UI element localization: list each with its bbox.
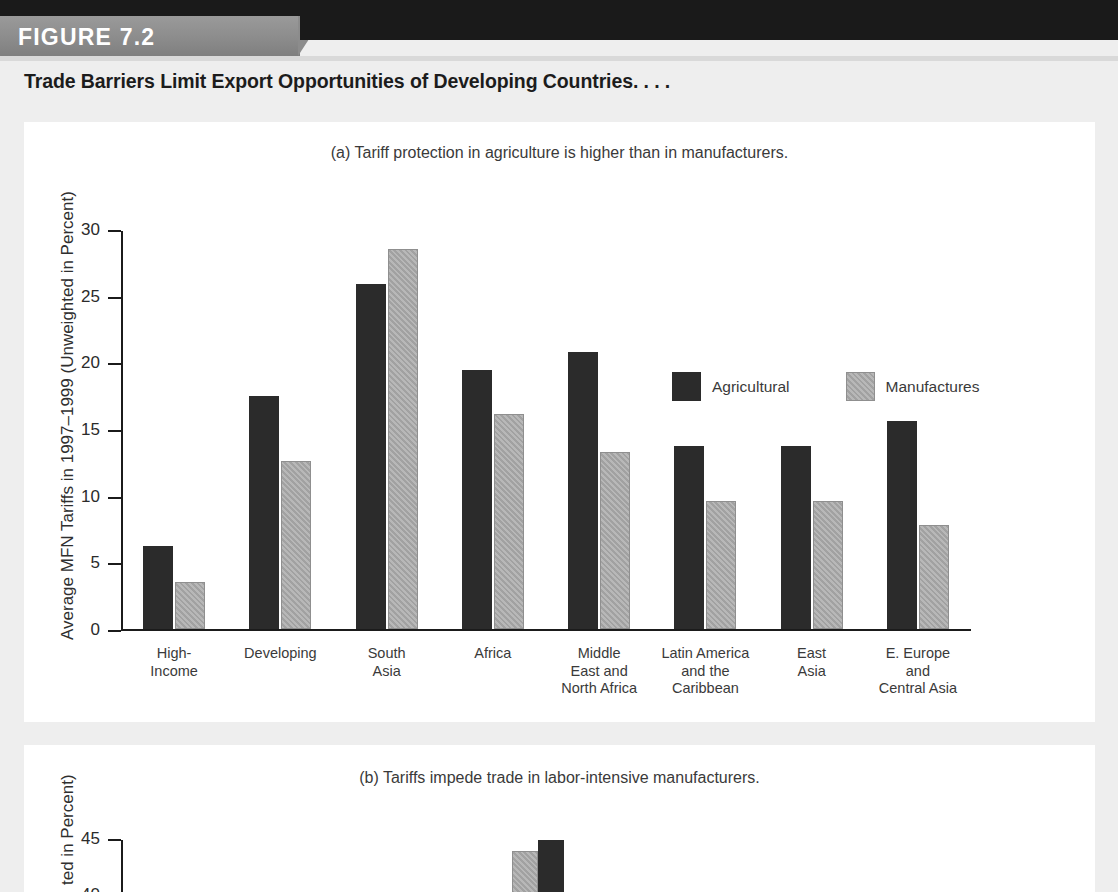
chart-panel-a: (a) Tariff protection in agriculture is … (24, 122, 1095, 722)
panel-a-y-tick-label: 10 (81, 486, 100, 506)
bar-manufactures-6 (813, 501, 843, 629)
figure-page: FIGURE 7.2 Trade Barriers Limit Export O… (0, 0, 1118, 892)
bar-manufactures-2 (388, 249, 418, 629)
panel-a-caption: (a) Tariff protection in agriculture is … (24, 144, 1095, 162)
panel-a-category-label: Latin Americaand theCaribbean (661, 645, 749, 698)
panel-a-y-tick: 0 (108, 630, 121, 632)
bar-agricultural-0 (143, 546, 173, 629)
banner-underline-strip (0, 56, 1118, 61)
panel-a-y-tick: 15 (108, 430, 121, 432)
panel-b-y-tick-label: 40 (81, 885, 100, 892)
panel-a-category-label: MiddleEast andNorth Africa (561, 645, 637, 698)
panel-a-y-tick-label: 15 (81, 420, 100, 440)
panel-b-bar-1 (538, 840, 564, 892)
panel-a-x-axis-line (121, 629, 971, 631)
panel-a-y-tick: 30 (108, 230, 121, 232)
bar-manufactures-0 (175, 582, 205, 629)
bar-manufactures-1 (281, 461, 311, 629)
panel-a-y-tick-label: 30 (81, 220, 100, 240)
bar-manufactures-5 (706, 501, 736, 629)
panel-b-y-tick: 45 (108, 839, 121, 841)
panel-a-y-tick: 10 (108, 497, 121, 499)
bar-manufactures-7 (919, 525, 949, 629)
panel-b-y-axis-label: ted in Percent) (58, 774, 78, 885)
panel-a-plot-area: 051015202530High-IncomeDevelopingSouthAs… (121, 231, 971, 631)
bar-agricultural-6 (781, 446, 811, 629)
panel-a-y-tick-label: 25 (81, 286, 100, 306)
legend-item-agricultural: Agricultural (672, 372, 790, 401)
legend-label-agricultural: Agricultural (712, 378, 790, 396)
figure-banner: FIGURE 7.2 (0, 16, 420, 56)
panel-a-category-label: Africa (474, 645, 511, 663)
figure-number-label: FIGURE 7.2 (18, 24, 155, 51)
bar-agricultural-4 (568, 352, 598, 629)
bar-manufactures-4 (600, 452, 630, 629)
bar-agricultural-7 (887, 421, 917, 629)
panel-a-y-tick-label: 5 (91, 553, 100, 573)
panel-a-y-tick-label: 0 (91, 620, 100, 640)
legend-swatch-agricultural-icon (672, 372, 701, 401)
panel-b-plot-area: 4045 (121, 840, 971, 892)
bar-manufactures-3 (494, 414, 524, 629)
chart-panel-b: (b) Tariffs impede trade in labor-intens… (24, 745, 1095, 892)
panel-a-category-label: E. EuropeandCentral Asia (879, 645, 957, 698)
panel-b-y-axis-line (121, 840, 123, 892)
panel-a-y-tick: 25 (108, 297, 121, 299)
figure-title: Trade Barriers Limit Export Opportunitie… (24, 70, 670, 93)
bar-agricultural-5 (674, 446, 704, 629)
banner-black-block (300, 16, 1118, 40)
panel-b-y-tick-label: 45 (81, 829, 100, 849)
panel-a-category-label: Developing (244, 645, 317, 663)
panel-a-y-tick: 20 (108, 363, 121, 365)
panel-a-y-axis-line (121, 231, 123, 631)
panel-b-bar-0 (512, 851, 538, 892)
legend-item-manufactures: Manufactures (846, 372, 980, 401)
legend-label-manufactures: Manufactures (886, 378, 980, 396)
bar-agricultural-3 (462, 370, 492, 629)
legend-swatch-manufactures-icon (846, 372, 875, 401)
panel-a-y-tick-label: 20 (81, 353, 100, 373)
panel-a-category-label: High-Income (150, 645, 198, 680)
panel-a-category-label: SouthAsia (368, 645, 406, 680)
panel-a-legend: Agricultural Manufactures (672, 372, 1023, 401)
bar-agricultural-2 (356, 284, 386, 629)
panel-a-y-axis-label: Average MFN Tariffs in 1997–1999 (Unweig… (58, 191, 78, 640)
panel-a-category-label: EastAsia (797, 645, 826, 680)
panel-a-y-tick: 5 (108, 563, 121, 565)
bar-agricultural-1 (249, 396, 279, 629)
panel-b-caption: (b) Tariffs impede trade in labor-intens… (24, 769, 1095, 787)
